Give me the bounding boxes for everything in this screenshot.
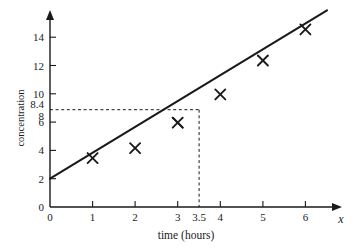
x-tick-label-5: 5 bbox=[260, 212, 266, 223]
x-tick-label-6: 6 bbox=[303, 212, 309, 223]
y-tick-label-0: 0 bbox=[4, 202, 44, 213]
data-point-marker bbox=[88, 153, 98, 163]
data-point-marker bbox=[258, 56, 268, 66]
x-tick-label-0: 0 bbox=[47, 212, 53, 223]
data-point-markers bbox=[88, 24, 311, 163]
scatter-plot-figure: 0 2 4 6 8 8.4 10 12 14 0 1 2 3 3.5 4 5 6… bbox=[0, 0, 356, 249]
x-tick-label-3: 3 bbox=[175, 212, 181, 223]
y-tick-label-2: 2 bbox=[4, 173, 44, 184]
x-axis-variable-label: x bbox=[338, 212, 343, 227]
data-point-marker bbox=[173, 118, 183, 128]
data-point-marker bbox=[300, 24, 310, 34]
data-point-marker bbox=[215, 89, 225, 99]
x-tick-label-4: 4 bbox=[218, 212, 224, 223]
y-tick-label-14: 14 bbox=[4, 32, 44, 43]
x-tick-label-2: 2 bbox=[132, 212, 138, 223]
x-tick-label-1: 1 bbox=[90, 212, 96, 223]
x-axis-title: time (hours) bbox=[158, 229, 215, 241]
y-axis-ticks bbox=[50, 37, 56, 179]
best-fit-line bbox=[50, 10, 327, 178]
data-point-marker bbox=[130, 143, 140, 153]
y-tick-label-12: 12 bbox=[4, 60, 44, 71]
x-tick-label-3-5: 3.5 bbox=[192, 212, 206, 223]
x-axis bbox=[50, 203, 342, 211]
y-axis-title: concentration bbox=[15, 89, 26, 146]
